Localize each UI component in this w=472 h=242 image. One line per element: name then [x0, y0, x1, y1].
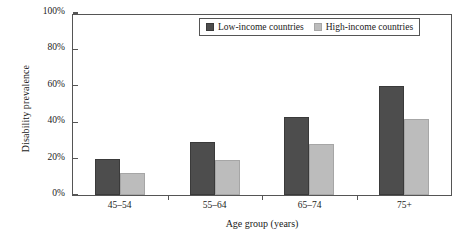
bar: [190, 142, 215, 195]
bar-group: [357, 15, 452, 195]
x-tick-label: 55–64: [167, 200, 262, 210]
x-tick-label: 45–54: [72, 200, 167, 210]
plot-area: 0%20%40%60%80%100%: [72, 14, 452, 196]
y-tick-label: 20%: [48, 152, 65, 162]
bar: [309, 144, 334, 195]
legend-item-high-income: High-income countries: [314, 22, 413, 32]
legend-label: High-income countries: [326, 22, 413, 32]
bar: [379, 86, 404, 195]
bar: [284, 117, 309, 195]
x-axis-title: Age group (years): [72, 218, 452, 229]
y-tick-label: 0%: [52, 188, 65, 198]
y-tick-mark: [73, 12, 78, 13]
bar: [215, 160, 240, 195]
legend-swatch-icon: [206, 23, 214, 31]
legend-label: Low-income countries: [218, 22, 304, 32]
y-tick-label: 40%: [48, 115, 65, 125]
y-tick-label: 100%: [43, 6, 65, 16]
legend-item-low-income: Low-income countries: [206, 22, 304, 32]
bar: [404, 119, 429, 195]
bar-group: [73, 15, 168, 195]
bar-groups: [73, 15, 451, 195]
y-tick-label: 60%: [48, 79, 65, 89]
bar: [95, 159, 120, 195]
bar-chart-figure: Disability prevalence 0%20%40%60%80%100%…: [0, 0, 472, 242]
chart-legend: Low-income countries High-income countri…: [199, 18, 420, 36]
legend-swatch-icon: [314, 23, 322, 31]
x-tick-label: 75+: [357, 200, 452, 210]
bar-group: [262, 15, 357, 195]
x-axis-tick-labels: 45–5455–6465–7475+: [72, 200, 452, 210]
y-axis-title: Disability prevalence: [20, 29, 31, 189]
bar-group: [168, 15, 263, 195]
x-tick-label: 65–74: [262, 200, 357, 210]
bar: [120, 173, 145, 195]
y-tick-label: 80%: [48, 42, 65, 52]
